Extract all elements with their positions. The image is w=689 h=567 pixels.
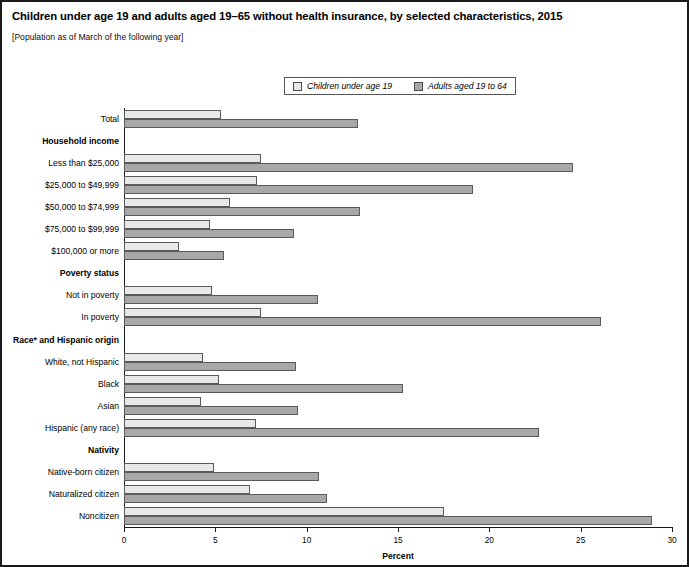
bar-row: Hispanic (any race) xyxy=(124,417,672,439)
bar-adults xyxy=(124,317,601,326)
x-tick xyxy=(215,527,216,532)
row-label: Hispanic (any race) xyxy=(45,424,119,433)
bar-row: Asian xyxy=(124,395,672,417)
bar-adults xyxy=(124,163,573,172)
row-label: $100,000 or more xyxy=(51,247,119,256)
bar-adults xyxy=(124,406,298,415)
row-label: Naturalized citizen xyxy=(49,490,119,499)
x-tick xyxy=(307,527,308,532)
bar-children xyxy=(124,463,214,472)
bar-adults xyxy=(124,428,539,437)
row-label: $75,000 to $99,999 xyxy=(45,225,119,234)
legend-label-adults: Adults aged 19 to 64 xyxy=(428,81,507,91)
bar-row: Black xyxy=(124,373,672,395)
row-label: Less than $25,000 xyxy=(48,159,119,168)
x-tick xyxy=(124,527,125,532)
bar-adults xyxy=(124,472,319,481)
group-header-label: Poverty status xyxy=(60,269,119,278)
chart-title: Children under age 19 and adults aged 19… xyxy=(12,10,677,22)
chart-legend: Children under age 19 Adults aged 19 to … xyxy=(284,77,516,95)
legend-swatch-children-icon xyxy=(293,82,302,91)
group-header-label: Household income xyxy=(42,137,119,146)
legend-swatch-adults-icon xyxy=(414,82,423,91)
row-label: Native-born citizen xyxy=(48,468,119,477)
chart-subtitle: [Population as of March of the following… xyxy=(12,32,184,42)
plot-area: 051015202530 TotalHousehold incomeLess t… xyxy=(124,108,672,527)
bar-adults xyxy=(124,362,296,371)
bar-children xyxy=(124,242,179,251)
bar-row: Less than $25,000 xyxy=(124,152,672,174)
x-tick-label: 15 xyxy=(393,535,402,545)
row-label: Noncitizen xyxy=(79,512,119,521)
x-tick xyxy=(672,527,673,532)
x-tick xyxy=(398,527,399,532)
bar-adults xyxy=(124,185,473,194)
group-header-label: Nativity xyxy=(88,446,119,455)
bar-children xyxy=(124,286,212,295)
bar-children xyxy=(124,419,256,428)
group-header-row: Household income xyxy=(124,130,672,152)
bar-children xyxy=(124,220,210,229)
bar-adults xyxy=(124,516,652,525)
row-label: Black xyxy=(98,380,119,389)
group-header-row: Nativity xyxy=(124,439,672,461)
bar-adults xyxy=(124,384,403,393)
bar-row: $25,000 to $49,999 xyxy=(124,174,672,196)
bar-children xyxy=(124,507,444,516)
x-tick-label: 25 xyxy=(576,535,585,545)
bar-row: $75,000 to $99,999 xyxy=(124,218,672,240)
bar-adults xyxy=(124,295,318,304)
row-label: Not in poverty xyxy=(66,291,119,300)
group-header-row: Poverty status xyxy=(124,262,672,284)
legend-entry-children: Children under age 19 xyxy=(293,81,392,91)
x-tick-label: 30 xyxy=(667,535,676,545)
bar-row: $100,000 or more xyxy=(124,240,672,262)
row-label: White, not Hispanic xyxy=(45,358,119,367)
bar-children xyxy=(124,308,261,317)
bar-row: Naturalized citizen xyxy=(124,483,672,505)
bar-children xyxy=(124,110,221,119)
row-label: In poverty xyxy=(81,313,119,322)
x-tick xyxy=(581,527,582,532)
legend-label-children: Children under age 19 xyxy=(307,81,392,91)
bar-children xyxy=(124,375,219,384)
bar-row: $50,000 to $74,999 xyxy=(124,196,672,218)
group-header-label: Race* and Hispanic origin xyxy=(13,336,119,345)
row-label: $50,000 to $74,999 xyxy=(45,203,119,212)
bar-children xyxy=(124,485,250,494)
bar-children xyxy=(124,397,201,406)
bar-row: Noncitizen xyxy=(124,505,672,527)
bar-adults xyxy=(124,251,224,260)
bar-row: Total xyxy=(124,108,672,130)
x-tick xyxy=(489,527,490,532)
bar-row: Native-born citizen xyxy=(124,461,672,483)
row-label: $25,000 to $49,999 xyxy=(45,181,119,190)
bar-children xyxy=(124,353,203,362)
bar-row: White, not Hispanic xyxy=(124,351,672,373)
bar-adults xyxy=(124,119,358,128)
x-tick-label: 20 xyxy=(485,535,494,545)
row-label: Asian xyxy=(98,402,120,411)
bar-children xyxy=(124,154,261,163)
group-header-row: Race* and Hispanic origin xyxy=(124,329,672,351)
bar-children xyxy=(124,176,257,185)
bar-row: In poverty xyxy=(124,306,672,328)
x-axis-title: Percent xyxy=(124,551,672,561)
legend-entry-adults: Adults aged 19 to 64 xyxy=(414,81,507,91)
x-tick-label: 0 xyxy=(122,535,127,545)
bar-row: Not in poverty xyxy=(124,284,672,306)
chart-figure: Children under age 19 and adults aged 19… xyxy=(0,0,689,567)
row-label: Total xyxy=(101,115,119,124)
x-tick-label: 5 xyxy=(213,535,218,545)
bar-children xyxy=(124,198,230,207)
bar-adults xyxy=(124,494,327,503)
bar-adults xyxy=(124,229,294,238)
bar-adults xyxy=(124,207,360,216)
x-tick-label: 10 xyxy=(302,535,311,545)
